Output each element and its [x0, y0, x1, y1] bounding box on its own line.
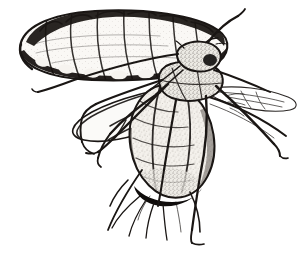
aphid-illustration-svg [0, 0, 305, 256]
compound-eye [203, 54, 217, 66]
illustration-canvas [0, 0, 305, 256]
